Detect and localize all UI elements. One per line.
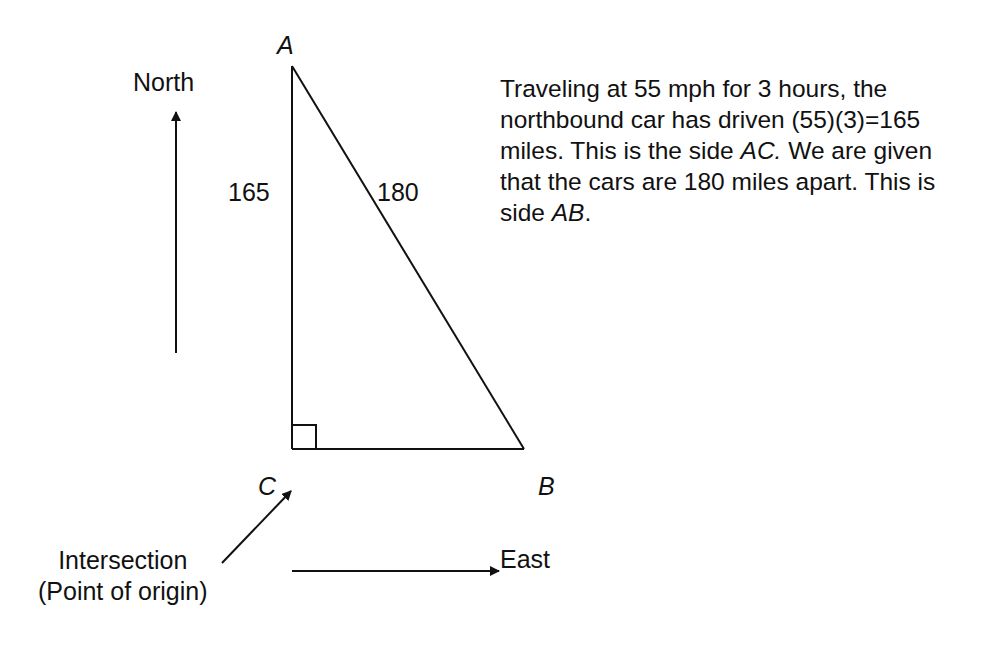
north-label: North	[133, 70, 194, 95]
side-ab	[292, 66, 524, 449]
side-ac-length-label: 165	[228, 180, 270, 205]
right-triangle	[292, 66, 524, 449]
origin-label-line1: Intersection	[38, 545, 208, 576]
vertex-label-c: C	[258, 474, 276, 499]
explanation-seg5: .	[584, 199, 591, 226]
vertex-label-a: A	[277, 33, 294, 58]
right-angle-marker	[292, 425, 316, 449]
origin-label-line2: (Point of origin)	[38, 576, 208, 607]
origin-label: Intersection (Point of origin)	[38, 545, 208, 607]
explanation-side-ab: AB	[552, 199, 585, 226]
side-ab-length-label: 180	[377, 180, 419, 205]
explanation-side-ac: AC.	[741, 137, 782, 164]
vertex-label-b: B	[538, 474, 555, 499]
east-label: East	[500, 547, 550, 572]
origin-pointer-arrow-icon	[222, 491, 291, 563]
explanation-text: Traveling at 55 mph for 3 hours, the nor…	[500, 73, 970, 228]
